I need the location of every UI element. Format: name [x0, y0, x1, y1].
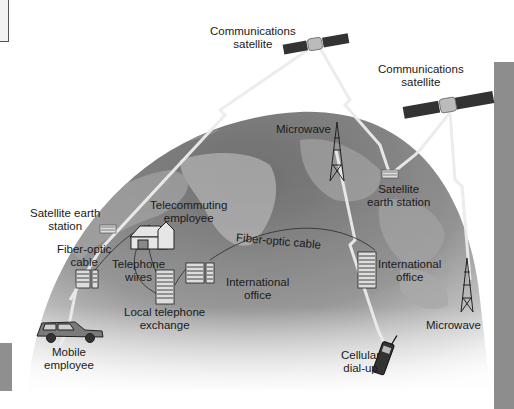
label-local-telephone-exchange: Local telephone exchange: [124, 306, 205, 332]
label-line: station: [30, 220, 100, 233]
label-line: satellite: [378, 76, 464, 89]
label-line: Telephone: [112, 258, 165, 271]
label-line: employee: [150, 212, 227, 225]
label-mobile-employee: Mobile employee: [44, 346, 94, 372]
label-communications-satellite-1: Communications satellite: [210, 25, 296, 51]
label-international-office-right: International office: [378, 258, 441, 284]
network-diagram: Communications satellite Communications …: [0, 0, 514, 409]
label-line: dial-up: [341, 362, 380, 375]
label-line: Local telephone: [124, 306, 205, 319]
label-line: International: [378, 258, 441, 271]
label-line: office: [378, 271, 441, 284]
label-communications-satellite-2: Communications satellite: [378, 63, 464, 89]
label-line: exchange: [124, 319, 205, 332]
label-line: cable: [57, 256, 111, 269]
office-building-icon: [358, 252, 376, 288]
label-line: International: [226, 276, 289, 289]
label-line: Telecommuting: [150, 199, 227, 212]
label-satellite-earth-station-left: Satellite earth station: [30, 207, 100, 233]
office-building-icon: [76, 270, 98, 288]
label-line: employee: [44, 359, 94, 372]
label-line: earth station: [367, 196, 430, 209]
label-line: Fiber-optic: [57, 243, 111, 256]
label-line: Mobile: [44, 346, 94, 359]
earth-station-icon: [100, 225, 116, 233]
label-microwave-right: Microwave: [426, 319, 481, 332]
label-telephone-wires: Telephone wires: [112, 258, 165, 284]
office-building-icon: [186, 263, 214, 283]
label-line: Satellite: [367, 183, 430, 196]
label-line: wires: [112, 271, 165, 284]
label-line: Satellite earth: [30, 207, 100, 220]
earth-station-icon: [382, 170, 398, 178]
label-telecommuting-employee: Telecommuting employee: [150, 199, 227, 225]
label-line: office: [226, 289, 289, 302]
label-line: Communications: [210, 25, 296, 38]
label-satellite-earth-station-right: Satellite earth station: [367, 183, 430, 209]
label-line: Communications: [378, 63, 464, 76]
label-line: Cellular: [341, 349, 380, 362]
label-fiber-optic-cable-left: Fiber-optic cable: [57, 243, 111, 269]
label-microwave-top: Microwave: [276, 123, 331, 136]
label-line: satellite: [210, 38, 296, 51]
label-international-office-center: International office: [226, 276, 289, 302]
label-cellular-dial-up: Cellular dial-up: [341, 349, 380, 375]
